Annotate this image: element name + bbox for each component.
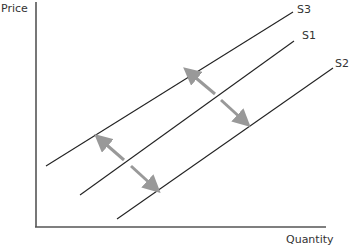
curve-label-s2: S2: [335, 58, 349, 69]
y-axis-label: Price: [1, 3, 28, 14]
curve-label-s1: S1: [302, 30, 316, 41]
supply-curve-s3: [46, 12, 293, 166]
curve-label-s3: S3: [297, 4, 311, 15]
x-axis-label: Quantity: [286, 234, 334, 245]
